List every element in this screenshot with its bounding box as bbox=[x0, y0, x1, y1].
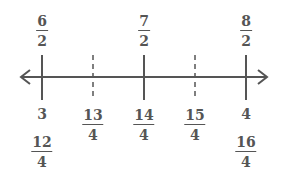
label-15-4: 15 4 bbox=[184, 108, 205, 142]
label-7-2: 7 2 bbox=[138, 14, 150, 48]
label-6-2: 6 2 bbox=[36, 14, 48, 48]
label-8-2: 8 2 bbox=[240, 14, 252, 48]
label-4: 4 bbox=[241, 107, 251, 121]
label-13-4: 13 4 bbox=[82, 108, 103, 142]
label-12-4: 12 4 bbox=[31, 135, 52, 169]
label-3: 3 bbox=[37, 107, 47, 121]
label-16-4: 16 4 bbox=[235, 135, 256, 169]
label-14-4: 14 4 bbox=[133, 108, 154, 142]
